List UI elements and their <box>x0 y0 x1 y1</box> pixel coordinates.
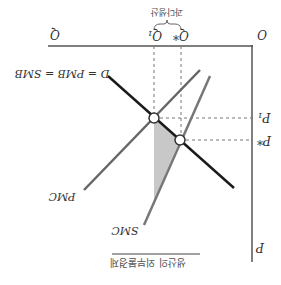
p1-label: P₁ <box>258 110 272 124</box>
origin-label: O <box>257 27 267 41</box>
diagram-title: 생산의 외부불경제 <box>110 257 185 269</box>
brace-label: 과다생산 <box>151 7 183 17</box>
smc-curve <box>144 76 210 225</box>
demand-label: D = PMB = SMB <box>15 67 111 80</box>
q1-label: Q₁ <box>148 28 163 42</box>
externality-diagram: O Q Q₁ Q* 과다생산 P₁ P* P D = PMB = SMB PMC… <box>0 0 281 285</box>
pstar-label: P* <box>257 133 272 147</box>
pmc-label: PMC <box>48 190 77 203</box>
smc-label: SMC <box>111 224 139 237</box>
quantity-axis-label: Q <box>50 27 60 41</box>
qstar-label: Q* <box>173 28 189 42</box>
demand-curve <box>108 76 234 188</box>
social-optimum-point <box>175 135 185 145</box>
pmc-curve <box>84 70 200 190</box>
price-axis-label: P <box>255 240 265 254</box>
market-equilibrium-point <box>149 113 159 123</box>
deadweight-loss-region <box>154 118 180 200</box>
